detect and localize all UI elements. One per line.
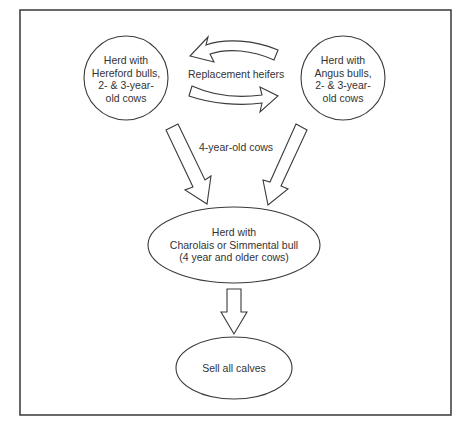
arrow-angus-to-hereford (190, 37, 278, 62)
edge-label-four-year-old-cows: 4-year-old cows (199, 141, 273, 153)
arrow-angus-to-terminal (263, 124, 307, 205)
node-terminal-line-1: Herd with (154, 226, 314, 239)
node-sell-line-1: Sell all calves (184, 362, 284, 375)
node-angus-line-1: Herd with (303, 54, 383, 67)
node-angus-label: Herd with Angus bulls, 2- & 3-year- old … (303, 54, 383, 104)
node-hereford-label: Herd with Hereford bulls, 2- & 3-year- o… (86, 54, 166, 104)
node-terminal-line-3: (4 year and older cows) (154, 251, 314, 264)
node-hereford-line-3: 2- & 3-year- (86, 79, 166, 92)
edge-label-replacement-heifers: Replacement heifers (188, 68, 284, 80)
arrow-hereford-to-angus (189, 86, 278, 112)
node-hereford-line-4: old cows (86, 92, 166, 105)
node-angus-line-4: old cows (303, 92, 383, 105)
arrow-hereford-to-terminal (166, 124, 211, 204)
node-terminal-label: Herd with Charolais or Simmental bull (4… (154, 226, 314, 264)
node-sell-label: Sell all calves (184, 362, 284, 375)
arrow-terminal-to-sell (221, 289, 247, 334)
node-hereford-line-1: Herd with (86, 54, 166, 67)
node-terminal-line-2: Charolais or Simmental bull (154, 239, 314, 252)
node-angus-line-3: 2- & 3-year- (303, 79, 383, 92)
node-hereford-line-2: Hereford bulls, (86, 67, 166, 80)
node-angus-line-2: Angus bulls, (303, 67, 383, 80)
